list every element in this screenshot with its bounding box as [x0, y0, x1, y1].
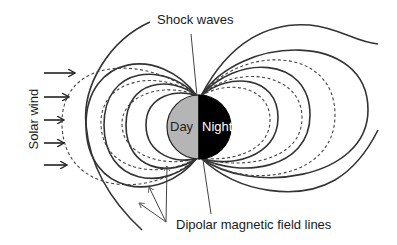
- day-label: Day: [170, 120, 193, 133]
- solar-wind-label: Solar wind: [27, 90, 40, 150]
- dipolar-field-lines-label: Dipolar magnetic field lines: [176, 218, 331, 231]
- nightside-field-lines: [201, 25, 378, 192]
- bow-shock-line: [86, 22, 150, 230]
- night-label: Night: [202, 120, 232, 133]
- shock-waves-pointer: [191, 34, 197, 96]
- solar-wind-arrows: [44, 73, 75, 165]
- shock-waves-label: Shock waves: [157, 13, 234, 26]
- magnetosphere-diagram: [0, 0, 397, 245]
